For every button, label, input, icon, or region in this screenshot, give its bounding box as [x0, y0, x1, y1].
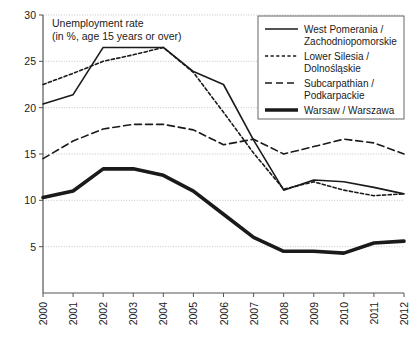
chart-subtitle: (in %, age 15 years or over): [52, 30, 182, 42]
legend-label-0[interactable]: West Pomerania /: [304, 24, 384, 35]
x-axis-tick-label: 2004: [157, 302, 169, 326]
chart-legend: West Pomerania /ZachodniopomorskieLower …: [258, 16, 404, 119]
x-axis-tick-label: 2009: [308, 302, 320, 326]
legend-label-2[interactable]: Subcarpathian /: [304, 78, 374, 89]
legend-label-1[interactable]: Lower Silesia /: [304, 51, 369, 62]
y-axis-tick-label: 5: [30, 241, 36, 253]
chart-title-block: Unemployment rate(in %, age 15 years or …: [52, 17, 182, 42]
x-axis-tick-label: 2001: [67, 302, 79, 326]
y-axis-tick-label: 15: [24, 148, 36, 160]
x-axis-ticks: 2000200120022003200420052006200720082009…: [37, 293, 410, 325]
y-axis-tick-label: 10: [24, 194, 36, 206]
chart-title: Unemployment rate: [52, 17, 144, 29]
legend-label-1-line2[interactable]: Dolnośląskie: [304, 63, 361, 74]
y-axis-tick-label: 25: [24, 55, 36, 67]
y-axis-tick-label: 20: [24, 102, 36, 114]
x-axis-tick-label: 2005: [187, 302, 199, 326]
series-line-3: [43, 169, 404, 253]
x-axis-tick-label: 2012: [398, 302, 410, 326]
x-axis-tick-label: 2008: [278, 302, 290, 326]
x-axis-tick-label: 2003: [127, 302, 139, 326]
legend-label-0-line2[interactable]: Zachodniopomorskie: [304, 36, 397, 47]
x-axis-tick-label: 2010: [338, 302, 350, 326]
x-axis-tick-label: 2002: [97, 302, 109, 326]
unemployment-rate-line-chart: 5101520253020002001200220032004200520062…: [0, 0, 410, 342]
x-axis-tick-label: 2000: [37, 302, 49, 326]
x-axis-tick-label: 2011: [368, 302, 380, 325]
x-axis-tick-label: 2007: [248, 302, 260, 326]
legend-label-2-line2[interactable]: Podkarpackie: [304, 90, 365, 101]
y-axis-tick-label: 30: [24, 9, 36, 21]
legend-label-3[interactable]: Warsaw / Warszawa: [304, 105, 395, 116]
series-line-2: [43, 124, 404, 158]
x-axis-tick-label: 2006: [218, 302, 230, 326]
chart-container: 5101520253020002001200220032004200520062…: [0, 0, 410, 342]
